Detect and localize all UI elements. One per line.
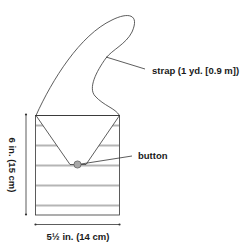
height-dimension-end-top: [25, 113, 27, 115]
strap: [36, 16, 135, 116]
strap-leader-line: [106, 57, 145, 69]
bag-diagram: strap (1 yd. [0.9 m]) button 6 in. (15 c…: [0, 0, 252, 245]
height-dimension-end-bottom: [25, 213, 27, 215]
width-label: 5½ in. (14 cm): [47, 231, 110, 242]
width-dimension-end-left: [34, 223, 36, 225]
bag-flap: [36, 116, 120, 165]
button-circle: [74, 161, 81, 168]
width-dimension-end-right: [118, 223, 120, 225]
button-label: button: [138, 150, 168, 161]
strap-label: strap (1 yd. [0.9 m]): [152, 65, 239, 76]
height-label: 6 in. (15 cm): [7, 138, 18, 193]
